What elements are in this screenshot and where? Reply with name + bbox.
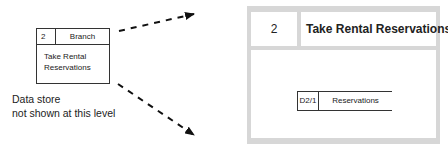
expand-arrow-top [119, 14, 194, 31]
arrows-layer [0, 0, 448, 152]
expand-arrow-bottom [118, 84, 194, 135]
